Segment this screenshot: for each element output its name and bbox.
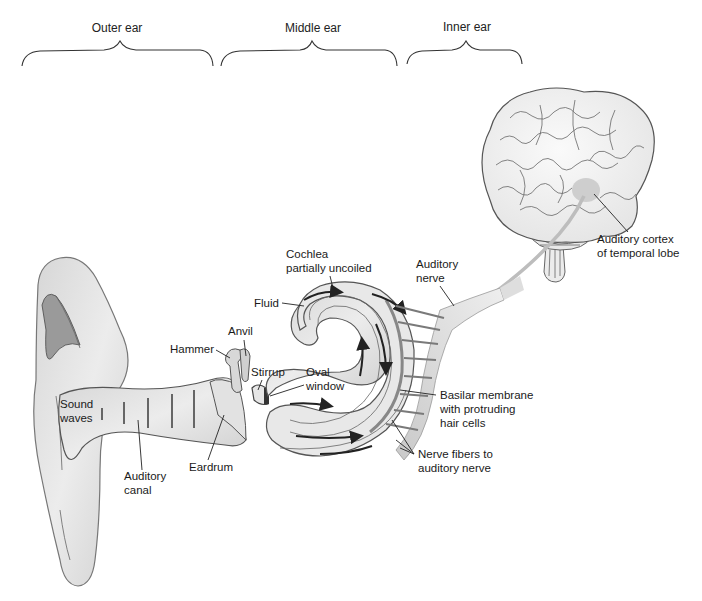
- svg-text:Auditory: Auditory: [416, 258, 458, 270]
- svg-text:Oval: Oval: [306, 366, 330, 378]
- svg-text:window: window: [305, 380, 345, 392]
- svg-text:Stirrup: Stirrup: [251, 366, 285, 378]
- svg-text:partially uncoiled: partially uncoiled: [286, 262, 372, 274]
- section-brace-outer-ear: Outer ear: [22, 21, 213, 66]
- svg-text:auditory nerve: auditory nerve: [418, 462, 491, 474]
- section-brace-middle-ear: Middle ear: [221, 21, 397, 66]
- section-label-middle-ear: Middle ear: [285, 21, 341, 35]
- svg-text:Auditory cortex: Auditory cortex: [597, 233, 674, 245]
- svg-text:waves: waves: [59, 412, 93, 424]
- label-fluid: Fluid: [254, 297, 304, 309]
- label-hammer: Hammer: [170, 343, 230, 358]
- svg-text:Fluid: Fluid: [254, 297, 279, 309]
- svg-text:canal: canal: [124, 484, 152, 496]
- svg-text:of temporal lobe: of temporal lobe: [597, 247, 679, 259]
- section-brace-inner-ear: Inner ear: [407, 20, 522, 64]
- svg-text:Nerve fibers to: Nerve fibers to: [418, 448, 493, 460]
- svg-text:Basilar membrane: Basilar membrane: [440, 389, 533, 401]
- svg-text:nerve: nerve: [416, 272, 445, 284]
- svg-text:Cochlea: Cochlea: [286, 248, 329, 260]
- section-label-outer-ear: Outer ear: [92, 21, 143, 35]
- section-label-inner-ear: Inner ear: [443, 20, 491, 34]
- svg-text:Anvil: Anvil: [228, 325, 253, 337]
- auditory-cortex-highlight: [572, 178, 600, 202]
- ear-anatomy-diagram: Outer ear Middle ear Inner ear: [0, 0, 702, 601]
- svg-text:hair cells: hair cells: [440, 417, 486, 429]
- svg-text:Sound: Sound: [60, 398, 93, 410]
- svg-text:Hammer: Hammer: [170, 343, 214, 355]
- svg-text:Eardrum: Eardrum: [189, 461, 233, 473]
- svg-text:Auditory: Auditory: [124, 470, 166, 482]
- svg-text:with protruding: with protruding: [439, 403, 515, 415]
- label-auditory-nerve: Auditory nerve: [416, 258, 458, 306]
